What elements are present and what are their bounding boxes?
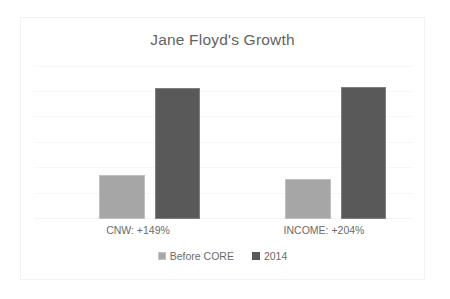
bar-before-core-cnw [99,175,145,219]
chart-card: Jane Floyd's Growth CNW: +149% INCOME: +… [20,17,425,280]
chart-title: Jane Floyd's Growth [21,31,424,49]
legend-item-2014[interactable]: 2014 [252,250,287,262]
chart-legend: Before CORE 2014 [21,250,424,262]
legend-swatch-icon [158,252,166,260]
legend-label-before-core: Before CORE [170,250,234,262]
bar-2014-cnw [155,88,200,219]
bar-2014-income [341,87,386,219]
bar-before-core-income [285,179,331,219]
legend-item-before-core[interactable]: Before CORE [158,250,234,262]
bar-group [264,66,384,219]
legend-swatch-icon [252,252,260,260]
category-label-cnw: CNW: +149% [78,224,198,236]
legend-label-2014: 2014 [264,250,287,262]
plot-area [34,66,413,219]
category-label-income: INCOME: +204% [264,224,384,236]
category-axis: CNW: +149% INCOME: +204% [34,224,413,242]
bar-group [78,66,198,219]
